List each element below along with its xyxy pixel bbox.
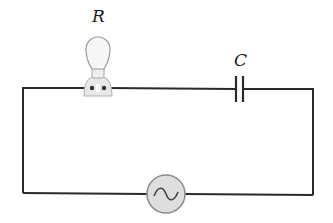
wire-bottom-left xyxy=(23,193,147,194)
circuit-svg xyxy=(0,0,333,223)
ac-source-icon xyxy=(147,175,185,213)
wire-top-middle xyxy=(106,88,236,89)
wire-top-right xyxy=(243,89,313,195)
wire-top-left xyxy=(23,88,90,193)
capacitor-label: C xyxy=(234,52,247,69)
wire-bottom-right xyxy=(185,194,313,195)
resistor-label: R xyxy=(92,8,105,25)
circuit-diagram: R C xyxy=(0,0,333,223)
capacitor-icon xyxy=(236,76,243,102)
light-bulb-icon xyxy=(84,37,112,96)
